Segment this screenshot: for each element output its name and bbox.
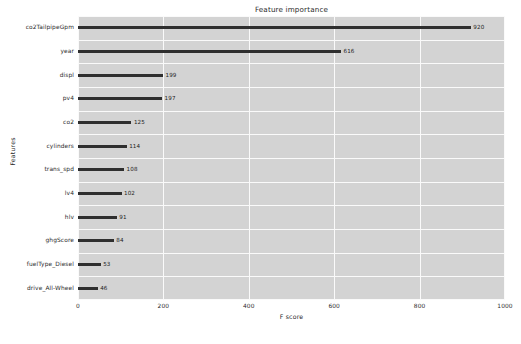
bar: [78, 145, 127, 148]
bar-value-label: 53: [103, 261, 110, 267]
gridline-horizontal: [78, 63, 505, 64]
bar-value-label: 84: [116, 237, 123, 243]
bar-value-label: 920: [473, 24, 484, 30]
bar-value-label: 91: [119, 214, 126, 220]
x-tick-label: 400: [243, 303, 255, 309]
gridline-horizontal: [78, 16, 505, 17]
chart-title: Feature importance: [78, 5, 505, 14]
y-tick-label: fuelType_Diesel: [27, 261, 74, 268]
bar: [78, 50, 341, 53]
bar-value-label: 46: [100, 285, 107, 291]
gridline-horizontal: [78, 40, 505, 41]
bar: [78, 192, 122, 195]
x-tick-label: 800: [414, 303, 426, 309]
chart-figure: Feature importance 920616199197125114108…: [0, 0, 521, 344]
gridline-horizontal: [78, 134, 505, 135]
y-tick-label: hlv: [65, 214, 74, 221]
y-tick-label: ghgScore: [45, 237, 74, 244]
bar-value-label: 108: [127, 166, 138, 172]
bar: [78, 168, 124, 171]
gridline-horizontal: [78, 229, 505, 230]
bar: [78, 26, 471, 29]
bar: [78, 74, 163, 77]
y-tick-label: co2TailpipeGpm: [26, 24, 74, 31]
x-axis-label: F score: [78, 313, 505, 320]
x-tick-label: 600: [328, 303, 340, 309]
x-tick-label: 1000: [497, 303, 512, 309]
y-tick-label: displ: [60, 72, 74, 79]
bar: [78, 216, 117, 219]
y-tick-label: trans_spd: [44, 166, 74, 173]
bar: [78, 263, 101, 266]
bar: [78, 239, 114, 242]
bar: [78, 97, 162, 100]
y-axis-label: Features: [9, 122, 16, 182]
y-tick-label: year: [60, 48, 74, 55]
y-tick-label: lv4: [65, 190, 74, 197]
y-tick-label: cylinders: [47, 143, 75, 150]
bar: [78, 287, 98, 290]
gridline-horizontal: [78, 299, 505, 300]
y-tick-label: pv4: [63, 95, 74, 102]
plot-area: 92061619919712511410810291845346: [78, 16, 505, 300]
gridline-horizontal: [78, 87, 505, 88]
gridline-horizontal: [78, 182, 505, 183]
x-tick-label: 0: [76, 303, 80, 309]
gridline-horizontal: [78, 205, 505, 206]
gridline-horizontal: [78, 111, 505, 112]
bar-value-label: 125: [134, 119, 145, 125]
bar-value-label: 616: [344, 48, 355, 54]
y-tick-label: drive_All-Wheel: [27, 285, 74, 292]
bar-value-label: 199: [165, 72, 176, 78]
bar-value-label: 114: [129, 143, 140, 149]
x-tick-label: 200: [158, 303, 170, 309]
gridline-horizontal: [78, 276, 505, 277]
bar-value-label: 102: [124, 190, 135, 196]
bar-value-label: 197: [165, 95, 176, 101]
gridline-horizontal: [78, 253, 505, 254]
gridline-horizontal: [78, 158, 505, 159]
y-tick-label: co2: [63, 119, 74, 126]
bar: [78, 121, 131, 124]
